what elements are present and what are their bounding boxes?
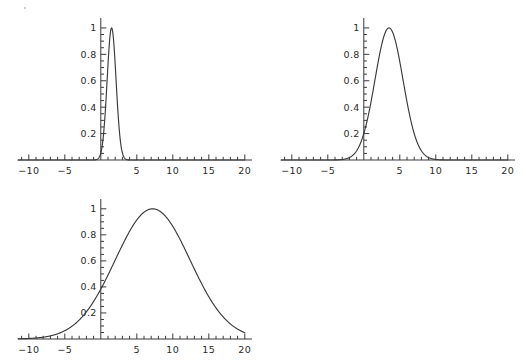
plot-panel-wide-gaussian: −10−551015200.20.40.60.81 [0, 181, 263, 363]
y-tick-label: 0.6 [343, 75, 359, 86]
x-tick-label: 15 [465, 165, 478, 176]
y-tick-label: 0.8 [80, 229, 96, 240]
y-tick-label: 0.4 [343, 102, 359, 113]
x-tick-label: −5 [57, 344, 72, 355]
gaussian-curve [18, 209, 245, 339]
plot-panel-narrow-gaussian: −10−551015200.20.40.60.81 [0, 0, 263, 181]
y-tick-label: 0.8 [80, 49, 96, 60]
x-tick-label: −10 [281, 165, 302, 176]
y-tick-label: 0.8 [343, 49, 359, 60]
x-tick-label: 20 [238, 344, 251, 355]
x-tick-label: 5 [397, 165, 403, 176]
x-tick-label: −10 [18, 165, 39, 176]
x-tick-label: 5 [134, 344, 140, 355]
x-tick-label: 10 [166, 165, 179, 176]
x-tick-label: 10 [429, 165, 442, 176]
multi-panel-plot-figure: −10−551015200.20.40.60.81 −10−551015200.… [0, 0, 526, 363]
y-tick-label: 0.2 [343, 128, 359, 139]
y-tick-label: 0.2 [80, 128, 96, 139]
y-tick-label: 1 [353, 22, 359, 33]
y-tick-label: 0.6 [80, 255, 96, 266]
y-tick-label: 0.4 [80, 102, 96, 113]
y-tick-label: 0.4 [80, 281, 96, 292]
y-tick-label: 1 [90, 22, 96, 33]
x-tick-label: 20 [501, 165, 514, 176]
y-tick-label: 1 [90, 203, 96, 214]
plot-svg: −10−551015200.20.40.60.81 [0, 0, 263, 181]
plot-panel-medium-gaussian: −10−551015200.20.40.60.81 [263, 0, 526, 181]
plot-svg: −10−551015200.20.40.60.81 [263, 0, 526, 181]
x-tick-label: 15 [202, 344, 215, 355]
x-tick-label: −5 [57, 165, 72, 176]
x-tick-label: −5 [320, 165, 335, 176]
x-tick-label: −10 [18, 344, 39, 355]
x-tick-label: 15 [202, 165, 215, 176]
x-tick-label: 5 [134, 165, 140, 176]
x-tick-label: 10 [166, 344, 179, 355]
plot-svg: −10−551015200.20.40.60.81 [0, 181, 263, 363]
gaussian-curve [281, 28, 508, 160]
gaussian-curve [18, 28, 245, 160]
x-tick-label: 20 [238, 165, 251, 176]
y-axis-major-ticks: 0.20.40.60.81 [343, 22, 369, 139]
y-tick-label: 0.6 [80, 75, 96, 86]
y-axis-major-ticks: 0.20.40.60.81 [80, 22, 106, 139]
